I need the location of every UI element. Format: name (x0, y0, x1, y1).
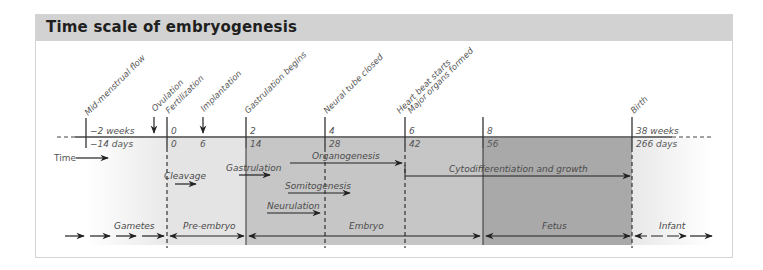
event-label-major-organs-formed: Major organs formed (405, 45, 475, 115)
time-label: Time (53, 153, 76, 163)
event-label-gastrulation-begins: Gastrulation begins (242, 49, 308, 115)
process-label-cytodifferentiation: Cytodifferentiation and growth (449, 164, 588, 174)
week-label: 2 (250, 126, 256, 136)
process-label-gastrulation: Gastrulation (226, 163, 282, 173)
stage-label-infant: Infant (659, 221, 686, 231)
day-label: −14 days (90, 139, 133, 149)
timeline-diagram: Mid-menstrual flow Ovulation Fertilizati… (0, 0, 763, 270)
week-label: −2 weeks (90, 126, 135, 136)
week-label: 38 weeks (636, 126, 679, 136)
day-label: 56 (487, 139, 499, 149)
day-label: 6 (200, 139, 206, 149)
event-label-birth: Birth (628, 94, 650, 116)
stage-label-gametes: Gametes (114, 221, 155, 231)
shaded-regions (86, 138, 712, 245)
event-label-heart-beat-starts: Heart beat starts (394, 57, 453, 116)
process-label-neurulation: Neurulation (267, 201, 320, 211)
week-label: 8 (487, 126, 493, 136)
day-label: 14 (250, 139, 262, 149)
week-label: 4 (329, 126, 335, 136)
event-arrows (154, 117, 203, 133)
week-label: 6 (409, 126, 415, 136)
event-labels: Mid-menstrual flow Ovulation Fertilizati… (82, 45, 650, 117)
process-label-somitogenesis: Somitogenesis (285, 181, 351, 191)
week-labels: −2 weeks 0 2 4 6 8 38 weeks (90, 126, 679, 136)
day-label: 0 (171, 139, 177, 149)
event-label-mid-menstrual-flow: Mid-menstrual flow (82, 53, 147, 118)
day-label: 42 (409, 139, 421, 149)
process-label-cleavage: Cleavage (164, 171, 206, 181)
stage-label-embryo: Embryo (349, 221, 384, 231)
week-label: 0 (171, 126, 177, 136)
process-label-organogenesis: Organogenesis (312, 151, 380, 161)
stage-label-pre-embryo: Pre-embryo (183, 221, 236, 231)
event-label-neural-tube-closed: Neural tube closed (321, 51, 385, 115)
day-label: 28 (329, 139, 341, 149)
stage-label-fetus: Fetus (542, 221, 567, 231)
event-label-implantation: Implantation (198, 68, 243, 113)
day-label: 266 days (636, 139, 678, 149)
